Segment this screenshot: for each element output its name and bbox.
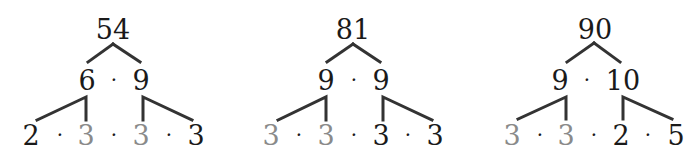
factor-left: 6 (78, 67, 95, 94)
leaf-4: 5 (667, 122, 684, 149)
multiply-operator: · (351, 70, 357, 90)
factor-right: 10 (606, 67, 640, 94)
leaf-2: 3 (77, 122, 94, 149)
factor-right: 9 (372, 67, 389, 94)
multiply-operator: · (111, 125, 117, 145)
multiply-operator: · (296, 125, 302, 145)
leaf-3: 3 (132, 122, 149, 149)
leaf-4: 3 (187, 122, 204, 149)
factor-tree-54: 54 6 · 9 2 · 3 · 3 · 3 (0, 0, 233, 154)
multiply-operator: · (537, 125, 543, 145)
leaf-3: 3 (372, 122, 389, 149)
multiply-operator: · (584, 70, 590, 90)
root-value: 90 (578, 16, 612, 43)
leaf-1: 3 (503, 122, 520, 149)
factor-right: 9 (132, 67, 149, 94)
multiply-operator: · (57, 125, 63, 145)
factor-left: 9 (551, 67, 568, 94)
factor-left: 9 (317, 67, 334, 94)
multiply-operator: · (645, 125, 651, 145)
leaf-2: 3 (557, 122, 574, 149)
multiply-operator: · (166, 125, 172, 145)
leaf-4: 3 (426, 122, 443, 149)
multiply-operator: · (351, 125, 357, 145)
multiply-operator: · (405, 125, 411, 145)
multiply-operator: · (111, 70, 117, 90)
leaf-1: 2 (22, 122, 39, 149)
multiply-operator: · (591, 125, 597, 145)
root-value: 81 (336, 16, 370, 43)
root-value: 54 (96, 16, 130, 43)
leaf-3: 2 (612, 122, 629, 149)
factor-tree-90: 90 9 · 10 3 · 3 · 2 · 5 (466, 0, 699, 154)
leaf-2: 3 (317, 122, 334, 149)
leaf-1: 3 (262, 122, 279, 149)
factor-tree-81: 81 9 · 9 3 · 3 · 3 · 3 (233, 0, 466, 154)
